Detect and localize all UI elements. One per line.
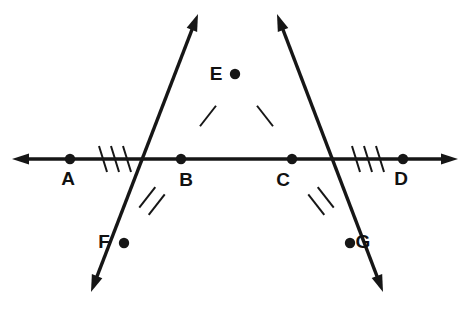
line-AD-arrowhead-start bbox=[12, 153, 29, 164]
tick-BF-2 bbox=[149, 194, 165, 214]
point-F bbox=[119, 238, 129, 248]
geometry-diagram-canvas: ABCDEFG bbox=[0, 0, 469, 314]
tick-mark-group-BE bbox=[200, 106, 216, 126]
point-label-E: E bbox=[210, 63, 223, 84]
tick-CG-2 bbox=[318, 187, 334, 207]
tick-CE-1 bbox=[257, 106, 273, 126]
tick-mark-group-CG bbox=[308, 187, 333, 215]
tick-BF-1 bbox=[139, 187, 155, 207]
geometry-figure: ABCDEFG bbox=[0, 0, 469, 314]
tick-mark-group-CD bbox=[352, 146, 384, 172]
tick-CG-1 bbox=[308, 194, 324, 214]
line-through-F-B-E-arrowhead-end bbox=[187, 14, 198, 32]
lines-group bbox=[12, 14, 458, 292]
point-label-B: B bbox=[179, 169, 193, 190]
point-D bbox=[398, 154, 408, 164]
line-through-G-C-E-arrowhead-start bbox=[372, 274, 383, 292]
point-label-D: D bbox=[394, 168, 408, 189]
line-through-G-C-E-arrowhead-end bbox=[277, 14, 288, 32]
tick-mark-group-CE bbox=[257, 106, 273, 126]
point-label-C: C bbox=[276, 169, 290, 190]
tick-BE-1 bbox=[200, 106, 216, 126]
point-label-A: A bbox=[61, 168, 75, 189]
point-E bbox=[230, 69, 240, 79]
line-AD-arrowhead-end bbox=[441, 153, 458, 164]
point-A bbox=[65, 154, 75, 164]
point-C bbox=[287, 154, 297, 164]
point-label-F: F bbox=[98, 231, 110, 252]
line-through-F-B-E bbox=[96, 26, 194, 280]
point-label-G: G bbox=[356, 231, 371, 252]
tick-mark-group-AB bbox=[99, 146, 131, 172]
point-G bbox=[345, 238, 355, 248]
tick-mark-group-BF bbox=[139, 187, 164, 215]
point-B bbox=[176, 154, 186, 164]
line-through-F-B-E-arrowhead-start bbox=[91, 274, 102, 292]
